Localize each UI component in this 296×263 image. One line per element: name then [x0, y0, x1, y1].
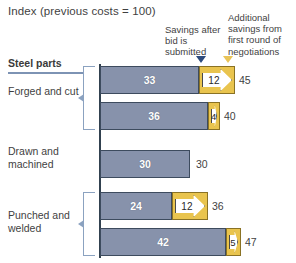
- category-label-drawn-and-machined: Drawn and machined: [8, 145, 82, 170]
- bar-total-value: 45: [239, 74, 251, 86]
- bar-extension-segment: 4: [208, 102, 220, 130]
- chart-title: Index (previous costs = 100): [8, 5, 156, 17]
- legend-savings-after-bid: Savings after bid is submitted: [165, 24, 225, 58]
- group-brace-forged-and-cut: [83, 66, 95, 130]
- extension-arrow-icon: 12: [202, 69, 232, 91]
- chart-container: Index (previous costs = 100) Savings aft…: [0, 0, 296, 263]
- bar-base-value: 30: [101, 158, 189, 170]
- series-title-underline: [8, 72, 84, 74]
- bar-total-value: 30: [196, 158, 208, 170]
- pointer-gold-triangle-icon: [223, 56, 233, 63]
- bar-row[interactable]: 36 4 40: [100, 102, 220, 130]
- bar-base-value: 42: [101, 236, 225, 248]
- bar-base-value: 36: [101, 110, 207, 122]
- bar-extension-segment: 12: [172, 192, 208, 220]
- extension-arrow-icon: 4: [211, 105, 217, 127]
- bar-base-segment: 36: [100, 102, 208, 130]
- bar-row[interactable]: 24 12 36: [100, 192, 208, 220]
- bar-row[interactable]: 42 5 47: [100, 228, 241, 256]
- bar-extension-value: 5: [230, 237, 235, 248]
- bar-base-segment: 24: [100, 192, 172, 220]
- bar-total-value: 36: [212, 200, 224, 212]
- pointer-blue-triangle-icon: [196, 56, 206, 63]
- group-brace-punched-and-welded: [83, 192, 95, 256]
- category-label-forged-and-cut: Forged and cut: [8, 85, 82, 98]
- bar-base-value: 24: [101, 200, 171, 212]
- bar-total-value: 40: [224, 110, 236, 122]
- legend-additional-savings: Additional savings from first round of n…: [228, 12, 294, 57]
- bar-base-segment: 33: [100, 66, 199, 94]
- bar-row[interactable]: 30 30: [100, 150, 190, 178]
- bar-total-value: 47: [245, 236, 257, 248]
- category-label-punched-and-welded: Punched and welded: [8, 209, 82, 234]
- bar-base-segment: 42: [100, 228, 226, 256]
- bar-row[interactable]: 33 12 45: [100, 66, 235, 94]
- extension-arrow-icon: 5: [229, 231, 238, 253]
- bar-extension-value: 4: [211, 111, 216, 122]
- extension-arrow-icon: 12: [175, 195, 205, 217]
- bar-base-value: 33: [101, 74, 198, 86]
- bar-extension-segment: 5: [226, 228, 241, 256]
- bar-base-segment: 30: [100, 150, 190, 178]
- bar-extension-segment: 12: [199, 66, 235, 94]
- bar-extension-value: 12: [181, 201, 192, 212]
- series-title: Steel parts: [8, 57, 62, 69]
- bar-extension-value: 12: [208, 75, 219, 86]
